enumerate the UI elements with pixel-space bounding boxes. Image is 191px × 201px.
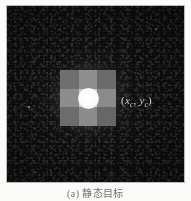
target-pixel-cell <box>79 70 98 89</box>
figure-caption: (a) 静态目标 <box>0 185 191 200</box>
target-pixel-cell <box>97 89 116 108</box>
target-pixel-cell <box>60 107 79 126</box>
target-bright-core <box>78 88 99 109</box>
target-centroid-label: (xc, yc) <box>121 94 152 109</box>
figure-page: (xc, yc) (a) 静态目标 <box>0 0 191 201</box>
hot-pixel <box>28 106 30 108</box>
target-pixel-cell <box>79 107 98 126</box>
target-pixel-cell <box>97 70 116 89</box>
target-pixel-cell <box>97 107 116 126</box>
hot-pixel <box>155 28 157 30</box>
sensor-image-frame: (xc, yc) <box>7 6 184 182</box>
target-pixel-cell <box>60 70 79 89</box>
label-close-paren: ) <box>148 94 152 106</box>
target-pixel-cell <box>60 89 79 108</box>
